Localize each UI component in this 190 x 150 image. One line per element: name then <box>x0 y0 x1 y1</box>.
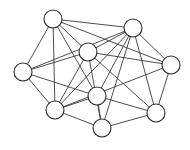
node-D <box>14 63 32 81</box>
node-C <box>79 43 97 61</box>
network-diagram <box>0 0 190 150</box>
node-B <box>124 19 142 37</box>
node-A <box>44 10 62 28</box>
node-E <box>162 56 180 74</box>
node-H <box>147 104 165 122</box>
node-I <box>93 119 111 137</box>
node-G <box>46 101 64 119</box>
node-F <box>88 87 106 105</box>
